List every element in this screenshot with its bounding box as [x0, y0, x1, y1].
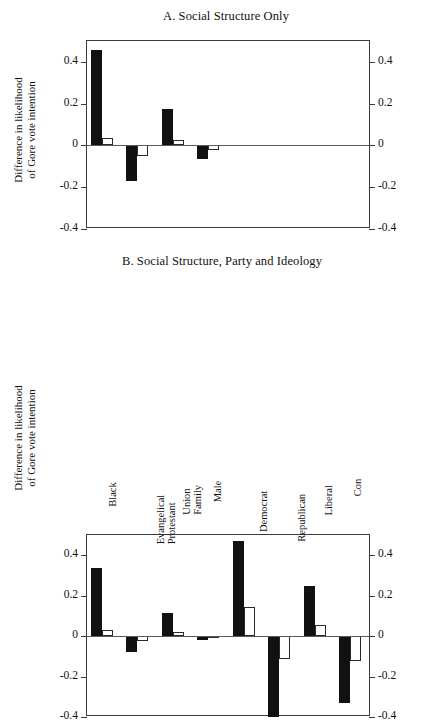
- category-label-con: Con: [352, 479, 363, 497]
- y-axis-tick: [369, 636, 375, 637]
- y-axis-tick-label: 0: [378, 137, 384, 149]
- category-label-evangelical-protestant: EvangelicalProtestant: [155, 495, 177, 545]
- y-axis-tick: [81, 677, 87, 678]
- bar-con-hollow: [350, 636, 361, 661]
- y-axis-tick: [369, 229, 375, 230]
- y-axis-tick: [81, 62, 87, 63]
- panel-b-y-axis-title: Difference in likelihood of Gore vote in…: [12, 348, 37, 528]
- y-axis-tick-label: -0.4: [60, 221, 78, 233]
- y-axis-tick-label: 0: [72, 628, 78, 640]
- y-axis-tick: [81, 187, 87, 188]
- category-label-democrat: Democrat: [258, 491, 269, 532]
- y-axis-tick: [369, 104, 375, 105]
- panel-b-title: B. Social Structure, Party and Ideology: [0, 254, 424, 269]
- y-axis-tick-label: -0.4: [60, 709, 78, 721]
- panel-a-bars: [87, 41, 369, 227]
- y-axis-tick: [81, 717, 87, 718]
- bar-liberal-hollow: [315, 625, 326, 636]
- category-label-male: Male: [212, 481, 223, 503]
- y-axis-tick-label: -0.4: [378, 709, 396, 721]
- y-axis-tick: [369, 596, 375, 597]
- panel-a: A. Social Structure Only Difference in l…: [0, 0, 424, 248]
- y-axis-tick-label: 0.4: [64, 547, 78, 559]
- y-axis-tick-label: 0.4: [378, 54, 392, 66]
- panel-b-bars: [87, 535, 369, 715]
- y-axis-tick: [369, 62, 375, 63]
- bar-democrat-solid: [233, 541, 244, 636]
- y-axis-title-line2: of Gore vote intention: [25, 348, 38, 528]
- y-axis-tick: [369, 717, 375, 718]
- y-axis-tick: [81, 229, 87, 230]
- bar-democrat-hollow: [244, 607, 255, 636]
- y-axis-tick-label: 0: [378, 628, 384, 640]
- y-axis-tick: [81, 596, 87, 597]
- zero-line: [87, 145, 369, 146]
- y-axis-tick: [81, 104, 87, 105]
- panel-a-plot-area: 0.40.40.20.200-0.2-0.2-0.4-0.4: [86, 40, 370, 228]
- bar-black-solid: [91, 568, 102, 636]
- y-axis-title-line1: Difference in likelihood: [12, 348, 25, 528]
- y-axis-tick: [369, 145, 375, 146]
- category-label-liberal: Liberal: [323, 485, 334, 515]
- bar-evangelical-protestant-solid: [126, 636, 137, 652]
- bar-union-family-solid: [162, 613, 173, 636]
- panel-b-plot-area: 0.40.40.20.200-0.2-0.2-0.4-0.4: [86, 534, 370, 716]
- y-axis-title-line1: Difference in likelihood: [12, 40, 25, 220]
- y-axis-tick-label: 0.2: [64, 96, 78, 108]
- y-axis-tick: [369, 555, 375, 556]
- y-axis-tick-label: 0.2: [378, 96, 392, 108]
- bar-male-solid: [197, 145, 208, 159]
- zero-line: [87, 636, 369, 637]
- y-axis-tick-label: 0.2: [64, 588, 78, 600]
- y-axis-tick-label: -0.2: [60, 179, 78, 191]
- bar-con-solid: [339, 636, 350, 703]
- y-axis-tick: [81, 555, 87, 556]
- panel-a-title: A. Social Structure Only: [0, 9, 424, 24]
- y-axis-tick-label: 0.4: [378, 547, 392, 559]
- bar-black-solid: [91, 50, 102, 145]
- category-label-republican: Republican: [296, 494, 307, 542]
- y-axis-tick-label: 0.4: [64, 54, 78, 66]
- y-axis-title-line2: of Gore vote intention: [25, 40, 38, 220]
- bar-union-family-solid: [162, 109, 173, 146]
- category-label-union-family: UnionFamily: [181, 485, 203, 515]
- bar-liberal-solid: [304, 586, 315, 637]
- y-axis-tick-label: -0.2: [378, 669, 396, 681]
- bar-evangelical-protestant-solid: [126, 145, 137, 181]
- y-axis-tick-label: -0.2: [378, 179, 396, 191]
- bar-republican-solid: [268, 636, 279, 717]
- y-axis-tick-label: 0: [72, 137, 78, 149]
- y-axis-tick-label: -0.2: [60, 669, 78, 681]
- panel-b-category-labels: BlackEvangelicalProtestantUnionFamilyMal…: [86, 470, 370, 548]
- panel-a-y-axis-title: Difference in likelihood of Gore vote in…: [12, 40, 37, 220]
- y-axis-tick-label: 0.2: [378, 588, 392, 600]
- bar-black-hollow: [102, 138, 113, 145]
- y-axis-tick-label: -0.4: [378, 221, 396, 233]
- category-label-black: Black: [107, 482, 118, 507]
- bar-evangelical-protestant-hollow: [137, 145, 148, 155]
- y-axis-tick: [369, 187, 375, 188]
- y-axis-tick: [369, 677, 375, 678]
- bar-republican-hollow: [279, 636, 290, 659]
